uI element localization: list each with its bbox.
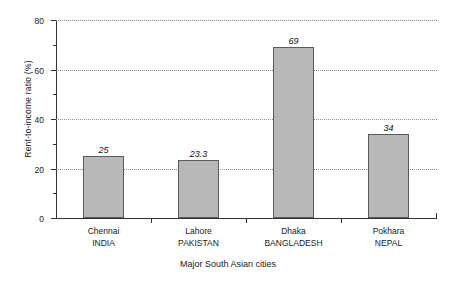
y-tick-label-0: 0 [39, 214, 44, 224]
x-tick-sep-1 [151, 218, 152, 223]
x-category-country-pakistan: PAKISTAN [178, 238, 219, 250]
y-axis-title: Rent-to-income ratio (%) [23, 19, 33, 199]
bar-value-chennai: 25 [98, 145, 108, 155]
x-tick-start [56, 213, 57, 218]
y-tick-label-60: 60 [35, 66, 44, 76]
y-minor-tick-10 [53, 193, 56, 194]
x-tick-sep-2 [246, 218, 247, 223]
y-tick-60: 60 [51, 70, 56, 71]
y-tick-0: 0 [51, 218, 56, 219]
x-category-label-pokhara: Pokhara NEPAL [373, 226, 405, 249]
bar-pokhara[interactable]: 34 [368, 134, 409, 218]
x-category-city-chennai: Chennai [88, 226, 120, 238]
y-tick-label-80: 80 [35, 16, 44, 26]
x-category-country-india: INDIA [88, 238, 120, 250]
y-tick-40: 40 [51, 119, 56, 120]
y-tick-label-20: 20 [35, 165, 44, 175]
bar-value-dhaka: 69 [288, 36, 298, 46]
x-category-label-lahore: Lahore PAKISTAN [178, 226, 219, 249]
x-category-city-pokhara: Pokhara [373, 226, 405, 238]
x-category-label-chennai: Chennai INDIA [88, 226, 120, 249]
bar-value-lahore: 23.3 [190, 149, 208, 159]
gridline-60 [56, 70, 437, 71]
y-minor-tick-70 [53, 45, 56, 46]
bar-lahore[interactable]: 23.3 [178, 160, 219, 218]
y-tick-label-40: 40 [35, 115, 44, 125]
bar-value-pokhara: 34 [383, 123, 393, 133]
y-minor-tick-30 [53, 144, 56, 145]
x-tick-end [436, 213, 437, 218]
bar-chennai[interactable]: 25 [83, 156, 124, 218]
y-tick-80: 80 [51, 20, 56, 21]
x-category-country-nepal: NEPAL [373, 238, 405, 250]
bar-dhaka[interactable]: 69 [273, 47, 314, 218]
x-axis-title: Major South Asian cities [0, 259, 456, 269]
y-minor-tick-50 [53, 94, 56, 95]
x-category-city-lahore: Lahore [178, 226, 219, 238]
y-tick-20: 20 [51, 169, 56, 170]
x-category-city-dhaka: Dhaka [264, 226, 322, 238]
x-category-label-dhaka: Dhaka BANGLADESH [264, 226, 322, 249]
x-category-country-bangladesh: BANGLADESH [264, 238, 322, 250]
bar-chart: Rent-to-income ratio (%) 80 60 40 20 0 [0, 0, 456, 284]
gridline-80 [56, 20, 437, 21]
x-tick-sep-3 [341, 218, 342, 223]
gridline-40 [56, 119, 437, 120]
plot-area: 80 60 40 20 0 25 23.3 69 [56, 20, 437, 218]
